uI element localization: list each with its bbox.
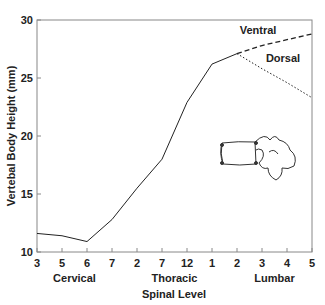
y-tick-label: 25 <box>21 72 33 84</box>
x-tick-label: 4 <box>284 257 291 269</box>
vertebra-illustration-icon <box>221 136 296 180</box>
x-tick-label: 6 <box>84 257 90 269</box>
x-tick-label: 7 <box>109 257 115 269</box>
series-lines <box>37 34 312 242</box>
x-tick-label: 12 <box>181 257 193 269</box>
x-tick-label: 5 <box>59 257 65 269</box>
x-tick-label: 2 <box>234 257 240 269</box>
dorsal-label: Dorsal <box>266 52 300 64</box>
x-tick-label: 1 <box>209 257 215 269</box>
group-label: Cervical <box>53 272 96 284</box>
group-label: Thoracic <box>152 272 198 284</box>
y-tick-label: 30 <box>21 14 33 26</box>
series-ventral <box>237 34 312 54</box>
y-tick-label: 10 <box>21 246 33 258</box>
x-axis-label: Spinal Level <box>142 288 206 300</box>
x-tick-label: 2 <box>134 257 140 269</box>
x-tick-label: 5 <box>309 257 315 269</box>
x-group-labels: CervicalThoracicLumbar <box>53 272 295 284</box>
ventral-label: Ventral <box>240 24 277 36</box>
y-axis-label: Vertebal Body Height (mm) <box>5 65 17 206</box>
x-tick-label: 3 <box>259 257 265 269</box>
y-axis: 1015202530 <box>21 14 41 258</box>
y-tick-label: 20 <box>21 130 33 142</box>
y-tick-label: 15 <box>21 188 33 200</box>
x-tick-label: 3 <box>34 257 40 269</box>
x-axis: 3567271212345 <box>34 248 315 269</box>
chart: 1015202530 3567271212345 CervicalThoraci… <box>0 0 325 305</box>
group-label: Lumbar <box>254 272 295 284</box>
x-tick-label: 7 <box>159 257 165 269</box>
series-combined <box>37 54 237 242</box>
